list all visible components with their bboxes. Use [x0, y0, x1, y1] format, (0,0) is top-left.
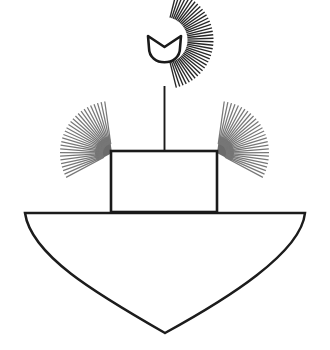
cabin-box-outline — [111, 151, 217, 212]
cabin-box-group — [111, 151, 217, 212]
figure-root: Line-art illustration of a vessel with r… — [0, 0, 330, 350]
illustration-canvas: Line-art illustration of a vessel with r… — [0, 0, 330, 350]
top-fan-ray — [187, 41, 213, 42]
top-fan-ray — [187, 38, 213, 39]
